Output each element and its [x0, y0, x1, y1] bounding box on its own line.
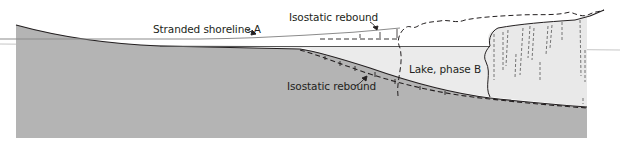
- label-isostatic-rebound-lower: Isostatic rebound: [287, 81, 376, 92]
- label-lake-phase-b: Lake, phase B: [409, 64, 481, 75]
- arrow-rebound-upper-icon: [373, 26, 378, 30]
- label-isostatic-rebound-upper: Isostatic rebound: [289, 12, 378, 23]
- isostatic-rebound-diagram: Stranded shoreline A Isostatic rebound I…: [0, 0, 620, 146]
- label-stranded-shoreline: Stranded shoreline A: [153, 24, 261, 35]
